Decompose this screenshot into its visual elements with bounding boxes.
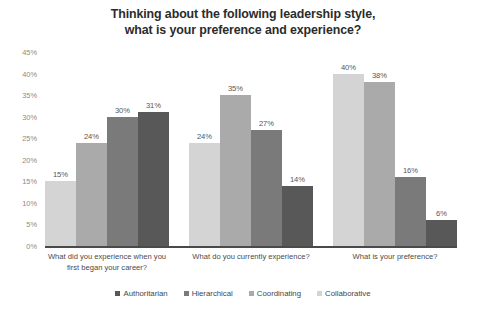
x-axis-category-label-line: What do you currently experience? (171, 252, 331, 263)
bar-value-label: 14% (282, 175, 313, 184)
y-axis-tick: 30% (22, 112, 37, 121)
bar (282, 186, 313, 246)
bar-group: 24%35%27%14% (189, 52, 313, 246)
bar-column: 16% (395, 52, 426, 246)
y-axis-tick: 15% (22, 177, 37, 186)
bar-value-label: 35% (220, 84, 251, 93)
x-axis-category-label: What do you currently experience? (171, 252, 331, 263)
bar-column: 24% (189, 52, 220, 246)
bar-group: 15%24%30%31% (45, 52, 169, 246)
x-axis-category-label-line: What is your preference? (315, 252, 475, 263)
legend-item[interactable]: Hierarchical (184, 289, 233, 298)
legend-label: Coordinating (257, 289, 301, 298)
legend-item[interactable]: Collaborative (317, 289, 371, 298)
bar-value-label: 27% (251, 119, 282, 128)
bar (107, 117, 138, 246)
bar (220, 95, 251, 246)
bar-column: 38% (364, 52, 395, 246)
bar (364, 82, 395, 246)
bar-column: 30% (107, 52, 138, 246)
bar-column: 40% (333, 52, 364, 246)
y-axis: 0%5%10%15%20%25%30%35%40%45% (0, 52, 41, 246)
bar-chart: Thinking about the following leadership … (0, 0, 486, 313)
plot-area: 15%24%30%31%24%35%27%14%40%38%16%6% (45, 52, 457, 246)
bar-group: 40%38%16%6% (333, 52, 457, 246)
bar (138, 112, 169, 246)
chart-title-line-2: what is your preference and experience? (50, 22, 436, 38)
bar-column: 35% (220, 52, 251, 246)
y-axis-tick: 5% (26, 220, 37, 229)
legend-swatch-icon (249, 291, 254, 296)
legend-label: Collaborative (325, 289, 371, 298)
bar-value-label: 38% (364, 71, 395, 80)
x-axis-category-label: What did you experience when youfirst be… (27, 252, 187, 273)
bar-column: 27% (251, 52, 282, 246)
bar (395, 177, 426, 246)
x-axis-line (45, 246, 457, 248)
bar-value-label: 31% (138, 101, 169, 110)
y-axis-tick: 20% (22, 155, 37, 164)
y-axis-tick: 35% (22, 91, 37, 100)
bar (333, 74, 364, 246)
bar-column: 31% (138, 52, 169, 246)
legend-swatch-icon (184, 291, 189, 296)
bar-column: 6% (426, 52, 457, 246)
y-axis-tick: 0% (26, 242, 37, 251)
y-axis-tick: 45% (22, 48, 37, 57)
chart-legend: AuthoritarianHierarchicalCoordinatingCol… (0, 289, 486, 298)
bar-group-bars: 24%35%27%14% (189, 52, 313, 246)
y-axis-tick: 10% (22, 198, 37, 207)
bar-value-label: 15% (45, 170, 76, 179)
bar-value-label: 24% (189, 132, 220, 141)
legend-swatch-icon (317, 291, 322, 296)
bar (251, 130, 282, 246)
y-axis-tick: 40% (22, 69, 37, 78)
x-axis-category-label: What is your preference? (315, 252, 475, 263)
bar (45, 181, 76, 246)
chart-title-line-1: Thinking about the following leadership … (50, 6, 436, 22)
legend-item[interactable]: Authoritarian (115, 289, 167, 298)
bar-column: 14% (282, 52, 313, 246)
bar-value-label: 6% (426, 209, 457, 218)
bar (426, 220, 457, 246)
y-axis-tick: 25% (22, 134, 37, 143)
bar-group-bars: 15%24%30%31% (45, 52, 169, 246)
bar-group-bars: 40%38%16%6% (333, 52, 457, 246)
bar-column: 24% (76, 52, 107, 246)
bar-value-label: 24% (76, 132, 107, 141)
bar-value-label: 40% (333, 63, 364, 72)
legend-swatch-icon (115, 291, 120, 296)
legend-label: Authoritarian (123, 289, 167, 298)
x-axis-category-label-line: first began your career? (27, 263, 187, 274)
chart-title: Thinking about the following leadership … (50, 6, 436, 38)
legend-item[interactable]: Coordinating (249, 289, 301, 298)
bar-column: 15% (45, 52, 76, 246)
bar-value-label: 30% (107, 106, 138, 115)
bar (189, 143, 220, 246)
x-axis-category-label-line: What did you experience when you (27, 252, 187, 263)
legend-label: Hierarchical (192, 289, 233, 298)
bar-value-label: 16% (395, 166, 426, 175)
bar (76, 143, 107, 246)
